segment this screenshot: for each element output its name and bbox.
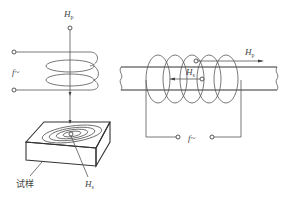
field-axis-terminal-icon [68, 26, 72, 30]
ac-source-label-left: f~ [12, 67, 20, 77]
coil-terminal-top-icon [12, 50, 16, 54]
arrow-down-icon [69, 92, 72, 96]
specimen-leader [30, 162, 42, 176]
secondary-field-source-icon [69, 132, 73, 136]
primary-field-origin-icon [194, 59, 198, 63]
specimen-label: 试样 [16, 178, 34, 189]
coil-icon [46, 52, 99, 90]
primary-field-label-left: Hp [63, 9, 74, 20]
arrow-right-icon [258, 60, 264, 63]
specimen-block [26, 122, 110, 166]
coil-terminal-bottom-icon [12, 88, 16, 92]
eddy-current-diagram: Hp f~ [0, 0, 292, 199]
secondary-field-label-right: Hs [185, 67, 196, 78]
ac-source-label-right: f~ [188, 133, 196, 143]
secondary-field-origin-icon [200, 77, 204, 81]
primary-field-label-right: Hp [244, 47, 255, 58]
source-terminal-right-icon [210, 135, 214, 139]
rod-specimen [120, 67, 278, 90]
secondary-field-label-left: Hs [84, 179, 95, 190]
source-terminal-left-icon [176, 135, 180, 139]
encircling-coil-setup: f~ Hp Hs [120, 47, 278, 143]
secondary-field-leader [71, 136, 88, 177]
surface-probe-setup: Hp f~ [12, 9, 110, 190]
